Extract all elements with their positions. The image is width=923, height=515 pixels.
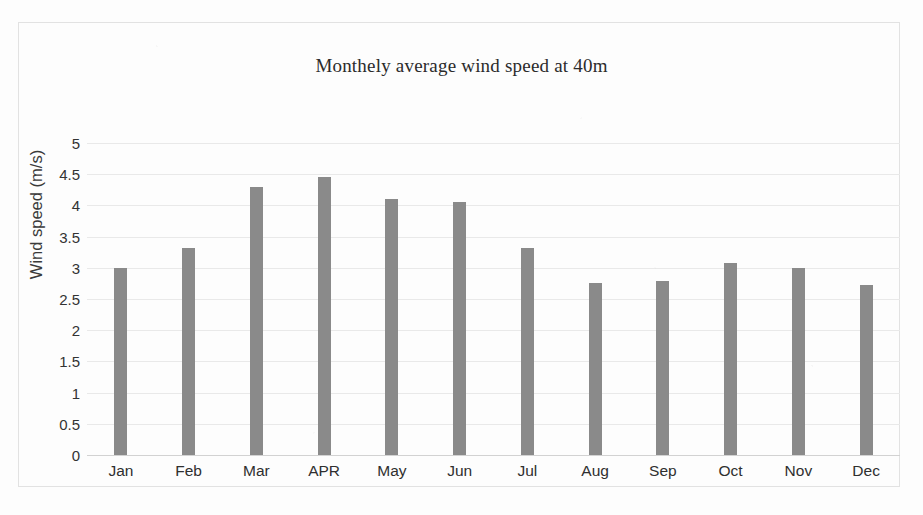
- gridline: [87, 237, 900, 238]
- bar: [860, 285, 873, 455]
- x-axis-tick-label: Oct: [696, 462, 766, 480]
- x-axis-tick-label: Dec: [831, 462, 901, 480]
- bar: [250, 187, 263, 455]
- bar: [724, 263, 737, 455]
- x-axis-tick-label: APR: [289, 462, 359, 480]
- y-axis-tick-label: 2.5: [40, 292, 80, 307]
- x-axis-tick-label: Feb: [154, 462, 224, 480]
- y-axis-tick-label: 3.5: [40, 230, 80, 245]
- bar: [453, 202, 466, 455]
- scanned-page: Monthely average wind speed at 40m Wind …: [0, 0, 923, 515]
- x-axis-tick-label: May: [357, 462, 427, 480]
- y-axis-tick-labels: 00.511.522.533.544.55: [40, 143, 80, 455]
- gridline: [87, 143, 900, 144]
- gridline: [87, 330, 900, 331]
- y-axis-tick-label: 2: [40, 323, 80, 338]
- y-axis-tick-label: 0.5: [40, 417, 80, 432]
- bar: [318, 177, 331, 455]
- y-axis-tick-label: 0: [40, 448, 80, 463]
- y-axis-tick-label: 4.5: [40, 167, 80, 182]
- x-axis-tick-label: Jan: [86, 462, 156, 480]
- gridline: [87, 205, 900, 206]
- bar: [385, 199, 398, 455]
- bar: [114, 268, 127, 455]
- y-axis-tick-label: 5: [40, 136, 80, 151]
- plot-area: [87, 143, 900, 455]
- gridline: [87, 393, 900, 394]
- bar: [589, 283, 602, 455]
- gridline: [87, 299, 900, 300]
- x-axis-tick-label: Nov: [763, 462, 833, 480]
- bar: [521, 248, 534, 455]
- y-axis-tick-label: 1.5: [40, 354, 80, 369]
- x-axis-tick-label: Aug: [560, 462, 630, 480]
- bar: [792, 268, 805, 455]
- x-axis-tick-label: Mar: [221, 462, 291, 480]
- y-axis-tick-label: 4: [40, 198, 80, 213]
- x-axis-tick-label: Sep: [628, 462, 698, 480]
- bar: [656, 281, 669, 455]
- x-axis-tick-label: Jun: [425, 462, 495, 480]
- bar: [182, 248, 195, 455]
- chart-title: Monthely average wind speed at 40m: [0, 55, 923, 77]
- gridline: [87, 455, 900, 456]
- y-axis-tick-label: 3: [40, 261, 80, 276]
- x-axis-tick-label: Jul: [492, 462, 562, 480]
- gridline: [87, 174, 900, 175]
- x-axis-tick-labels: JanFebMarAPRMayJunJulAugSepOctNovDec: [87, 462, 900, 490]
- gridline: [87, 361, 900, 362]
- gridline: [87, 268, 900, 269]
- gridline: [87, 424, 900, 425]
- y-axis-tick-label: 1: [40, 386, 80, 401]
